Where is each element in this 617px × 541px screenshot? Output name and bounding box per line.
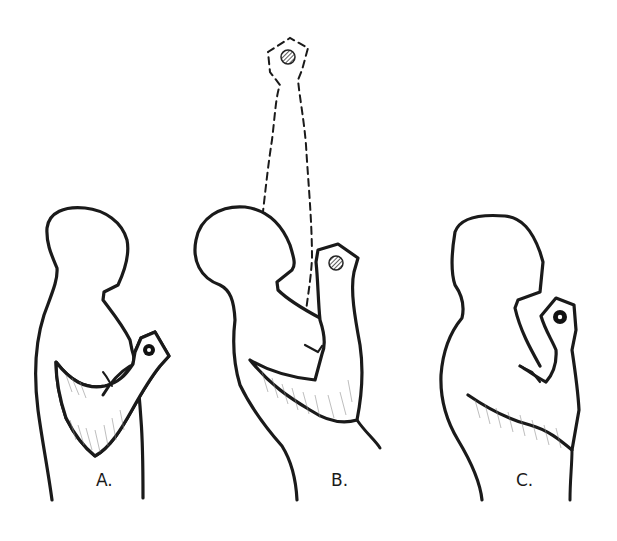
figure-a-label: A.: [96, 470, 113, 490]
figure-c-label: C.: [516, 470, 533, 490]
figure-b-ghost-dumbbell-icon: [281, 50, 295, 64]
figure-b: [195, 38, 380, 500]
figure-b-label: B.: [331, 470, 348, 490]
figure-a-torso: [36, 208, 143, 500]
figure-c: [441, 216, 579, 500]
bicep-curl-illustration: [0, 0, 617, 541]
figure-b-dumbbell-icon: [329, 256, 343, 270]
figure-c-torso: [441, 216, 543, 500]
figure-a: [36, 208, 169, 500]
figure-b-torso: [195, 207, 330, 500]
